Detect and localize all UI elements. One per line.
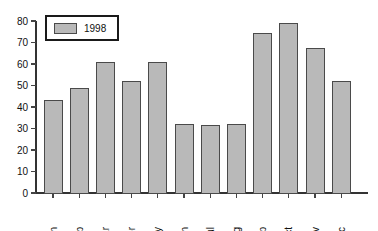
bar-jun [175,124,193,193]
y-tick-label: 20 [17,145,29,156]
x-tick-label-apr: Apr [126,226,137,231]
legend-swatch-1998 [54,23,76,33]
legend-label-1998: 1998 [84,23,107,34]
x-tick-label-jul: Jul [205,227,216,231]
x-tick-label-aug: Aug [231,227,242,231]
bar-nov [306,49,324,193]
bar-oct [280,23,298,193]
x-tick-label-feb: Feb [74,227,85,231]
bar-aug [227,124,245,193]
x-axis [36,193,368,198]
bar-series-1998 [44,23,350,193]
y-tick-label: 30 [17,123,29,134]
y-tick-label: 60 [17,59,29,70]
x-tick-label-sep: Sep [257,227,268,231]
x-tick-label-oct: Oct [283,227,294,231]
bar-may [149,63,167,193]
x-tick-label-mar: Mar [100,226,111,231]
bar-dec [332,81,350,193]
bar-sep [254,34,272,193]
x-tick-label-jun: Jun [179,227,190,231]
chart-legend: 1998 [46,16,118,40]
bar-chart-figure: 01020304050607080 JanFebMarAprMayJunJulA… [0,0,378,231]
bar-apr [123,81,141,193]
x-tick-label-nov: Nov [310,227,321,231]
y-tick-label: 80 [17,16,29,27]
x-tick-labels: JanFebMarAprMayJunJulAugSepOctNovDec [48,226,347,231]
x-tick-label-may: May [152,227,163,231]
x-tick-label-dec: Dec [336,227,347,231]
y-tick-label: 70 [17,37,29,48]
bar-jan [44,101,62,193]
y-tick-label: 0 [22,188,28,199]
bar-feb [70,89,88,193]
bar-mar [96,63,114,193]
chart-canvas: 01020304050607080 JanFebMarAprMayJunJulA… [0,0,378,231]
y-axis: 01020304050607080 [17,16,36,199]
y-tick-label: 10 [17,166,29,177]
x-tick-label-jan: Jan [48,227,59,231]
bar-jul [201,125,219,193]
y-tick-label: 50 [17,80,29,91]
y-tick-label: 40 [17,102,29,113]
